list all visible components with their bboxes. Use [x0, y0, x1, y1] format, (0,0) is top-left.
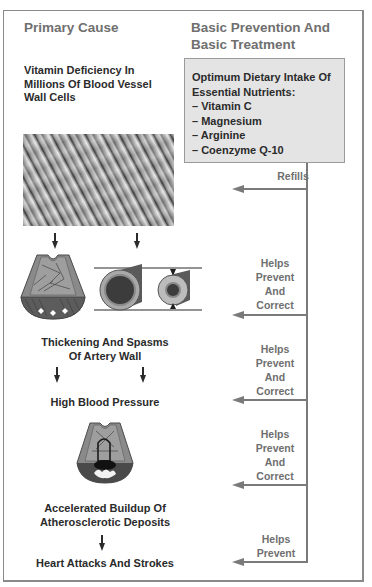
left-arrow-icon [232, 396, 244, 404]
left-arrow-icon [232, 185, 244, 193]
atherosclerotic-artery-icon [76, 421, 134, 485]
cause-step4: Accelerated Buildup Of Atherosclerotic D… [20, 502, 190, 529]
connector-label-2: Helps Prevent And Correct [235, 256, 315, 312]
nutrient-vitamin-c: – Vitamin C [192, 99, 331, 114]
down-arrow-icon [52, 241, 58, 249]
connector-arrow-line [240, 188, 307, 190]
artery-constriction-icon [92, 262, 204, 314]
left-arrow-icon [232, 311, 244, 319]
connector-arrow-line [240, 399, 307, 401]
nutrient-magnesium: – Magnesium [192, 114, 331, 129]
connector-arrow-line [240, 561, 308, 563]
connector-arrow-line [240, 484, 307, 486]
cause-step3: High Blood Pressure [20, 396, 190, 410]
left-arrow-icon [232, 481, 244, 489]
down-arrow-icon [99, 543, 105, 551]
connector-label-refills: Refills [253, 169, 333, 183]
cause-step1: Vitamin Deficiency In Millions Of Blood … [24, 64, 152, 105]
header-prevention-line2: Basic Treatment [191, 36, 295, 53]
down-arrow-icon [134, 241, 140, 249]
down-arrow-icon [54, 375, 60, 383]
cause-step2: Thickening And Spasms Of Artery Wall [20, 336, 190, 363]
connector-label-5: Helps Prevent [236, 532, 316, 560]
connector-label-3: Helps Prevent And Correct [235, 342, 315, 398]
vessel-cells-photo [23, 134, 174, 226]
header-prevention-line1: Basic Prevention And [191, 19, 330, 36]
artery-wall-section-icon [20, 253, 86, 321]
nutrient-arginine: – Arginine [192, 128, 331, 143]
connector-label-4: Helps Prevent And Correct [235, 427, 315, 483]
nutrient-coenzyme-q10: – Coenzyme Q-10 [192, 143, 331, 158]
left-arrow-icon [232, 558, 244, 566]
treatment-box: Optimum Dietary Intake Of Essential Nutr… [184, 58, 345, 163]
down-arrow-icon [140, 375, 146, 383]
cause-step5: Heart Attacks And Strokes [20, 557, 190, 571]
header-primary-cause: Primary Cause [24, 19, 119, 36]
connector-arrow-line [240, 314, 307, 316]
treatment-title: Optimum Dietary Intake Of Essential Nutr… [192, 70, 331, 157]
